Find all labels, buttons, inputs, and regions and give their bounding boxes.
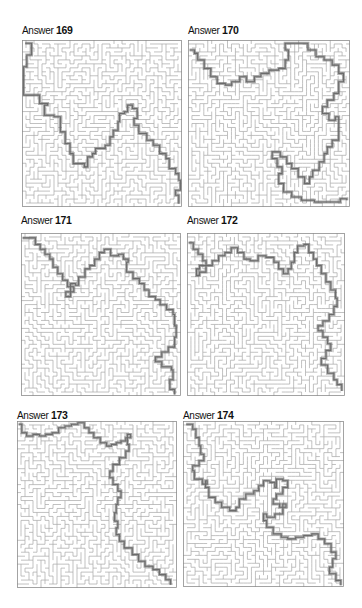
maze-solution-image — [21, 233, 181, 396]
maze-solution-image — [17, 421, 177, 588]
maze-svg — [22, 40, 182, 207]
answer-number: 171 — [55, 214, 72, 226]
answer-title: Answer 169 — [22, 24, 73, 37]
maze-solution-image — [188, 40, 350, 207]
answer-title: Answer 172 — [187, 214, 238, 227]
maze-solution-image — [22, 40, 182, 207]
maze-svg — [187, 233, 345, 396]
answer-number: 172 — [221, 214, 238, 226]
solution-path-shadow — [190, 43, 347, 202]
solution-path — [190, 43, 347, 202]
solution-path-shadow — [189, 243, 342, 391]
maze-walls — [21, 233, 181, 396]
answer-label: Answer — [22, 25, 54, 36]
answer-number: 170 — [222, 24, 239, 36]
answer-number: 174 — [217, 409, 234, 421]
maze-svg — [183, 421, 344, 587]
maze-walls — [17, 421, 177, 588]
maze-walls — [183, 421, 344, 587]
answer-number: 169 — [56, 24, 73, 36]
answer-label: Answer — [183, 410, 215, 421]
answer-label: Answer — [187, 215, 219, 226]
maze-solution-image — [183, 421, 344, 587]
maze-walls — [188, 40, 350, 207]
answer-title: Answer 170 — [188, 24, 239, 37]
answer-title: Answer 171 — [21, 214, 72, 227]
answer-label: Answer — [188, 25, 220, 36]
answer-label: Answer — [17, 410, 49, 421]
maze-svg — [188, 40, 350, 207]
maze-solution-image — [187, 233, 345, 396]
maze-svg — [21, 233, 181, 396]
answer-label: Answer — [21, 215, 53, 226]
maze-walls — [22, 40, 182, 207]
maze-svg — [17, 421, 177, 588]
answer-number: 173 — [51, 409, 68, 421]
